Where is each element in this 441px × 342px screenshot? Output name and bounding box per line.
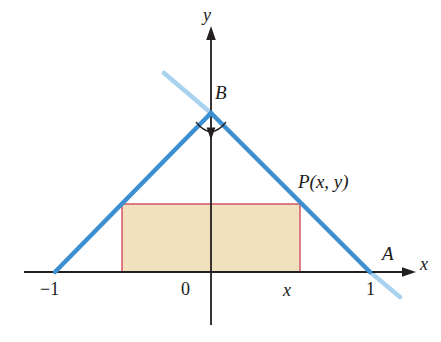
line-extension-upper — [164, 73, 211, 113]
tick-label-negative-one: −1 — [40, 280, 59, 298]
tick-label-one: 1 — [366, 280, 375, 298]
apex-angle-marker-arrowhead — [207, 128, 216, 141]
y-axis-label: y — [203, 6, 211, 24]
tick-label-variable-x: x — [283, 281, 291, 299]
x-axis-arrowhead — [402, 267, 416, 277]
x-axis-label: x — [420, 255, 428, 273]
point-label-p: P(x, y) — [298, 172, 349, 191]
point-label-a: A — [382, 244, 394, 263]
point-label-b: B — [215, 83, 227, 102]
tick-label-origin: 0 — [181, 280, 190, 298]
y-axis-arrowhead — [206, 26, 216, 40]
